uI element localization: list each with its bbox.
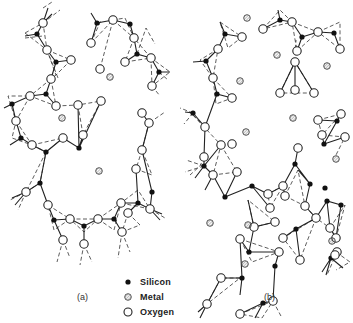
metal-atom (243, 129, 250, 136)
oxygen-atom (318, 131, 326, 139)
oxygen-atom (293, 47, 301, 55)
oxygen-atom (130, 34, 138, 42)
legend-silicon-label: Silicon (140, 277, 171, 287)
oxygen-atom (259, 25, 267, 33)
oxygen-atom (266, 204, 274, 212)
oxygen-legend-icon (124, 308, 132, 316)
oxygen-atom (214, 45, 222, 53)
oxygen-atom (228, 140, 236, 148)
oxygen-atom (271, 218, 279, 226)
silicon-atom (277, 17, 282, 22)
oxygen-atom (74, 101, 82, 109)
oxygen-atom (117, 199, 125, 207)
silicon-atom (334, 118, 339, 123)
oxygen-atom (124, 209, 132, 217)
silicon-atom (249, 183, 254, 188)
metal-atom (242, 261, 249, 268)
oxygen-atom (301, 202, 309, 210)
silicon-atom (127, 21, 132, 26)
oxygen-atom (294, 144, 302, 152)
silicon-legend-icon (125, 279, 130, 284)
oxygen-atom (121, 58, 129, 66)
silicon-atom (222, 31, 227, 36)
oxygen-atom (12, 117, 20, 125)
panel-a-network (4, 2, 170, 265)
metal-atom (207, 220, 214, 227)
silicon-atom (201, 163, 206, 168)
oxygen-atom (236, 310, 244, 318)
panel-a-silicon-atoms (9, 20, 161, 228)
oxygen-atom (281, 192, 289, 200)
oxygen-atom (296, 256, 304, 264)
metal-atom (96, 168, 103, 175)
silicon-atom (190, 110, 195, 115)
oxygen-atom (233, 168, 241, 176)
silicon-atom (307, 181, 312, 186)
oxygen-atom (22, 188, 30, 196)
oxygen-atom (279, 234, 287, 242)
silicon-atom (272, 263, 277, 268)
silicon-atom (134, 51, 139, 56)
oxygen-atom (59, 236, 67, 244)
oxygen-atom (217, 141, 225, 149)
silicon-atom (299, 34, 304, 39)
oxygen-atom (341, 133, 349, 141)
oxygen-atom (337, 110, 345, 118)
oxygen-atom (326, 224, 334, 232)
silicon-atom (51, 217, 56, 222)
silicon-atom (203, 58, 208, 63)
silicon-atom (37, 180, 42, 185)
metal-atom (244, 15, 251, 22)
oxygen-atom (314, 28, 322, 36)
oxygen-atom (39, 19, 47, 27)
oxygen-atom (94, 215, 102, 223)
metal-atom (245, 222, 252, 229)
silicon-atom (292, 161, 297, 166)
silicon-atom (293, 226, 298, 231)
silicate-structure-diagram (0, 0, 353, 323)
panel-a-oxygen-atoms (12, 16, 156, 248)
oxygen-atom (147, 54, 155, 62)
legend-metal-label: Metal (140, 292, 164, 302)
silicon-atom (338, 202, 343, 207)
oxygen-atom (331, 251, 339, 259)
silicon-atom (81, 223, 86, 228)
panel-b-bonds (185, 10, 345, 318)
silicon-atom (149, 189, 154, 194)
oxygen-atom (138, 109, 146, 117)
silicon-atom (9, 101, 14, 106)
oxygen-atom (87, 39, 95, 47)
silicon-atom (43, 91, 48, 96)
silicon-atom (214, 91, 219, 96)
oxygen-atom (97, 97, 105, 105)
oxygen-atom (66, 215, 74, 223)
metal-atom (290, 115, 297, 122)
panel-b-network (180, 10, 350, 318)
silicon-atom (246, 249, 251, 254)
silicon-atom (135, 200, 140, 205)
silicon-atom (18, 135, 23, 140)
oxygen-atom (279, 182, 287, 190)
oxygen-atom (44, 201, 52, 209)
silicon-atom (239, 275, 244, 280)
oxygen-atom (228, 94, 236, 102)
oxygen-atom (43, 46, 51, 54)
silicon-atom (321, 141, 326, 146)
oxygen-atom (275, 248, 283, 256)
silicon-atom (34, 31, 39, 36)
oxygen-atom (52, 102, 60, 110)
oxygen-atom (146, 205, 154, 213)
panel-b-silicon-atoms (190, 17, 343, 305)
metal-atom (274, 52, 281, 59)
metal-atom (333, 156, 340, 163)
legend (124, 279, 132, 316)
oxygen-atom (145, 119, 153, 127)
silicon-atom (111, 216, 116, 221)
oxygen-atom (312, 214, 320, 222)
oxygen-atom (148, 82, 156, 90)
oxygen-atom (203, 300, 211, 308)
silicon-atom (222, 194, 227, 199)
oxygen-atom (26, 92, 34, 100)
silicon-atom (94, 20, 99, 25)
oxygen-atom (209, 171, 217, 179)
